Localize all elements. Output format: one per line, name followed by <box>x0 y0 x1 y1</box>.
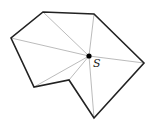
polygon-boundary <box>11 12 144 118</box>
diagram-canvas: S <box>0 0 149 122</box>
fan-line <box>34 56 89 87</box>
fan-line <box>43 12 89 56</box>
fan-lines <box>11 12 144 118</box>
polygon-diagram <box>0 0 149 122</box>
fan-line <box>11 38 89 56</box>
point-s-marker <box>86 53 91 58</box>
fan-line <box>89 14 94 56</box>
fan-line <box>69 56 89 80</box>
point-s-label: S <box>93 58 101 69</box>
